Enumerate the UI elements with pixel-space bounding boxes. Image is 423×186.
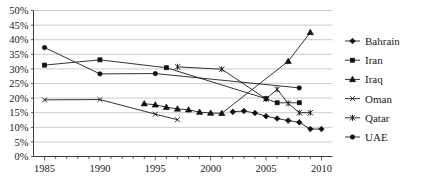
chart-canvas: 0%5%10%15%20%25%30%35%40%45%50% 19851990… — [0, 0, 423, 186]
data-point-triangle-marker — [349, 76, 355, 81]
data-point-square-marker — [275, 101, 279, 105]
series-line — [45, 48, 300, 88]
legend-label: UAE — [365, 131, 388, 143]
y-axis-tick-label: 50% — [9, 5, 29, 16]
data-point-diamond-marker — [230, 109, 236, 115]
y-axis-tick-label: 25% — [9, 78, 29, 89]
legend-label: Iran — [365, 54, 383, 66]
data-point-diamond-marker — [296, 120, 302, 126]
data-point-diamond-marker — [285, 118, 291, 124]
y-axis-tick-label: 15% — [9, 107, 29, 118]
series-oman — [42, 97, 180, 122]
data-point-square-marker — [297, 101, 301, 105]
y-axis-tick-label: 45% — [9, 20, 29, 31]
y-axis-tick-label: 10% — [9, 122, 29, 133]
y-axis-tick-label: 30% — [9, 64, 29, 75]
data-point-square-marker — [98, 58, 102, 62]
y-axis-tick-labels: 0%5%10%15%20%25%30%35%40%45%50% — [9, 5, 29, 162]
y-axis-tick-label: 0% — [15, 151, 29, 162]
data-point-circle-marker — [297, 86, 301, 90]
data-point-diamond-marker — [274, 116, 280, 122]
data-point-triangle-marker — [141, 101, 147, 106]
data-point-circle-marker — [42, 45, 46, 49]
x-axis-ticks — [45, 157, 322, 161]
x-axis-tick-label: 2010 — [311, 163, 332, 174]
data-point-asterisk-marker — [274, 86, 279, 92]
series-layer — [42, 29, 324, 132]
y-axis-tick-label: 35% — [9, 49, 29, 60]
data-point-diamond-marker — [252, 110, 258, 116]
data-point-circle-marker — [350, 135, 354, 139]
legend-item-iraq[interactable]: Iraq — [345, 73, 383, 85]
x-axis-tick-labels: 198519901995200020052010 — [34, 163, 332, 174]
data-point-asterisk-marker — [286, 100, 291, 106]
data-point-diamond-marker — [350, 38, 356, 44]
legend-item-iran[interactable]: Iran — [345, 54, 383, 66]
y-axis-tick-label: 20% — [9, 93, 29, 104]
x-axis-tick-label: 2005 — [256, 163, 277, 174]
legend-item-bahrain[interactable]: Bahrain — [345, 35, 400, 47]
legend-item-qatar[interactable]: Qatar — [345, 112, 390, 124]
data-point-triangle-marker — [307, 29, 313, 34]
series-line — [45, 60, 300, 103]
y-axis-tick-label: 40% — [9, 34, 29, 45]
x-axis-tick-label: 1995 — [145, 163, 166, 174]
chart-legend: BahrainIranIraqOmanQatarUAE — [345, 35, 400, 143]
y-axis-tick-label: 5% — [15, 137, 29, 148]
legend-label: Iraq — [365, 73, 383, 85]
data-point-square-marker — [164, 66, 168, 70]
x-axis-tick-label: 2000 — [200, 163, 221, 174]
line-chart: 0%5%10%15%20%25%30%35%40%45%50% 19851990… — [0, 0, 423, 186]
legend-item-uae[interactable]: UAE — [345, 131, 388, 143]
data-point-square-marker — [43, 63, 47, 67]
data-point-circle-marker — [98, 72, 102, 76]
x-axis-tick-label: 1985 — [34, 163, 55, 174]
x-axis-tick-label: 1990 — [89, 163, 110, 174]
legend-label: Qatar — [365, 112, 390, 124]
legend-label: Oman — [365, 93, 392, 105]
data-point-circle-marker — [153, 71, 157, 75]
data-point-diamond-marker — [263, 113, 269, 119]
data-point-square-marker — [350, 58, 354, 62]
legend-label: Bahrain — [365, 35, 400, 47]
legend-item-oman[interactable]: Oman — [345, 93, 392, 105]
